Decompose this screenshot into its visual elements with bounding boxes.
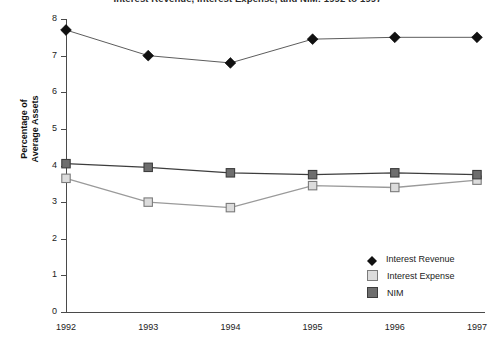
y-tick-label: 8 [52,13,57,23]
legend-label: Interest Expense [387,271,455,281]
x-tick-label: 1993 [138,322,158,332]
y-tick-label: 5 [52,123,57,133]
y-axis-title-line2: Average Assets [30,49,41,209]
data-point-marker [308,170,316,178]
y-tick-label: 0 [52,306,57,316]
data-point-marker [307,34,318,45]
x-tick-label: 1996 [385,322,405,332]
data-point-marker [143,50,154,61]
chart-title: Interest Revenue, Interest Expense, and … [0,0,495,4]
series-line [66,30,477,63]
square-marker-icon [367,270,378,281]
square-marker-icon [367,287,378,298]
legend-item-interest-expense[interactable]: Interest Expense [367,267,455,284]
y-tick-label: 1 [52,269,57,279]
y-axis-title: Percentage of Average Assets [19,49,41,209]
data-point-marker [391,169,399,177]
x-tick-label: 1994 [220,322,240,332]
data-point-marker [389,32,400,43]
data-point-marker [144,163,152,171]
data-point-marker [62,159,70,167]
y-axis-title-line1: Percentage of [19,49,30,209]
x-axis-line [66,312,485,313]
x-tick-label: 1997 [467,322,487,332]
data-point-marker [144,198,152,206]
chart-container: Interest Revenue, Interest Expense, and … [0,0,495,354]
legend-label: NIM [387,288,404,298]
data-point-marker [391,183,399,191]
y-tick-label: 6 [52,86,57,96]
legend-item-nim[interactable]: NIM [367,284,455,301]
y-tick-label: 3 [52,196,57,206]
series-line [66,178,477,207]
data-point-marker [473,170,481,178]
data-point-marker [308,181,316,189]
data-point-marker [61,25,72,36]
data-point-marker [225,58,236,69]
data-point-marker [226,169,234,177]
data-point-marker [62,174,70,182]
chart-legend: Interest Revenue Interest Expense NIM [367,250,455,301]
x-tick-label: 1995 [303,322,323,332]
data-point-marker [472,32,483,43]
data-point-marker [226,203,234,211]
diamond-marker-icon [367,251,377,261]
x-tick-label: 1992 [56,322,76,332]
legend-label: Interest Revenue [386,254,455,264]
series-line [66,164,477,175]
y-tick-label: 7 [52,50,57,60]
y-tick-label: 2 [52,233,57,243]
legend-item-interest-revenue[interactable]: Interest Revenue [367,250,455,267]
y-tick-label: 4 [52,160,57,170]
y-tick-mark [61,312,66,313]
